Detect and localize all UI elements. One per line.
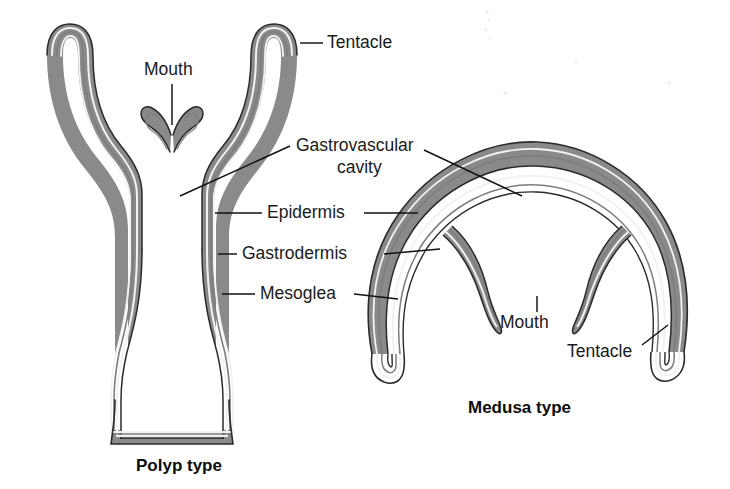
- label-mouth-polyp: Mouth: [144, 59, 193, 79]
- title-polyp-type: Polyp type: [136, 456, 222, 475]
- label-tentacle-medusa: Tentacle: [567, 341, 632, 361]
- label-tentacle-polyp: Tentacle: [327, 32, 392, 52]
- label-gastrovascular-cavity-line1: Gastrovascular: [296, 135, 414, 155]
- title-medusa-type: Medusa type: [468, 398, 571, 417]
- label-epidermis: Epidermis: [267, 202, 345, 222]
- label-mouth-medusa: Mouth: [500, 312, 549, 332]
- label-gastrodermis: Gastrodermis: [242, 243, 347, 263]
- label-mesoglea: Mesoglea: [260, 283, 336, 303]
- label-gastrovascular-cavity-line2: cavity: [337, 157, 382, 177]
- cnidarian-body-forms-figure: Tentacle Mouth Gastrovascular cavity Epi…: [0, 0, 730, 489]
- diagram-canvas: Tentacle Mouth Gastrovascular cavity Epi…: [0, 0, 730, 489]
